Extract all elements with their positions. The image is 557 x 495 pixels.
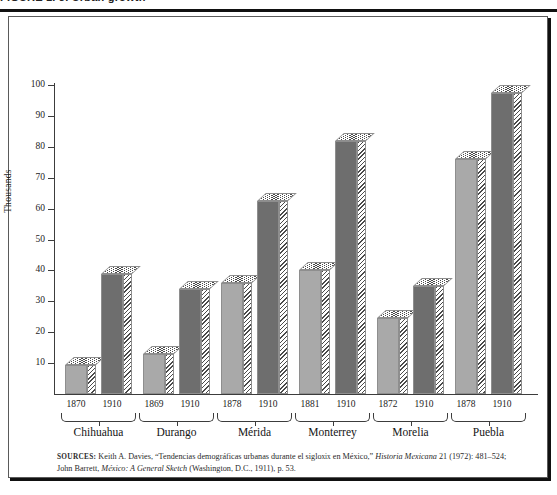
year-label-puebla-1910: 1910 (482, 399, 522, 409)
bar-side-hatch (123, 274, 132, 395)
bar-top-hatch (101, 266, 141, 274)
year-label-puebla-1878: 1878 (446, 399, 486, 409)
source-title-1: “Tendencias demográficas urbanas durante… (155, 452, 322, 461)
y-tick-label-40: 40 (9, 265, 45, 275)
bar-top-hatch (179, 281, 219, 289)
bar-face (455, 159, 477, 394)
bar-side-hatch (243, 283, 252, 394)
sources-note: SOURCES: Keith A. Davies, “Tendencias de… (57, 451, 517, 475)
bar-face (491, 93, 513, 394)
bar-side-hatch (201, 289, 210, 394)
bar-durango-1910 (179, 289, 201, 394)
bar-side-hatch (477, 159, 486, 394)
bar-top-hatch (455, 151, 495, 159)
bar-side-hatch (279, 201, 288, 394)
bar-top-hatch (221, 275, 261, 283)
frame-shadow-right (548, 18, 551, 480)
y-tick-label-70: 70 (9, 173, 45, 183)
source-title-1b: en México,” (333, 452, 373, 461)
bar-face (179, 289, 201, 394)
bar-side-hatch (165, 354, 174, 394)
bar-side-hatch (87, 365, 96, 394)
bar-face (257, 201, 279, 394)
bar-top-hatch (335, 133, 375, 141)
source-author-1: Keith A. Davies, (98, 452, 153, 461)
bar-monterrey-1881 (299, 270, 321, 394)
bar-face (65, 365, 87, 394)
x-axis-line (54, 394, 538, 395)
bar-durango-1869 (143, 354, 165, 394)
year-label-mrida-1878: 1878 (212, 399, 252, 409)
bars-plot-area (54, 69, 537, 393)
bar-face (221, 283, 243, 394)
bar-top-hatch (257, 193, 297, 201)
bar-mrida-1910 (257, 201, 279, 394)
year-label-chihuahua-1910: 1910 (92, 399, 132, 409)
bar-morelia-1872 (377, 318, 399, 394)
year-label-chihuahua-1870: 1870 (56, 399, 96, 409)
y-tick-label-10: 10 (9, 358, 45, 368)
y-tick-label-100: 100 (9, 80, 45, 90)
group-brace-morelia (373, 413, 448, 422)
group-brace-durango (139, 413, 214, 422)
year-label-monterrey-1910: 1910 (326, 399, 366, 409)
y-tick-label-50: 50 (9, 235, 45, 245)
y-tick-label-80: 80 (9, 142, 45, 152)
source-author-2: John Barrett, (57, 464, 99, 473)
y-tick-label-20: 20 (9, 327, 45, 337)
bar-top-hatch (65, 357, 105, 365)
figure-caption: FIGURE 1. 3. Urban growth (0, 0, 146, 3)
bar-mrida-1878 (221, 283, 243, 394)
bar-chihuahua-1910 (101, 274, 123, 395)
bar-face (143, 354, 165, 394)
bar-top-hatch (143, 346, 183, 354)
figure-frame: Thousands 102030405060708090100 18701910… (8, 16, 548, 478)
year-label-mrida-1910: 1910 (248, 399, 288, 409)
bar-face (335, 141, 357, 394)
bar-face (377, 318, 399, 394)
source-journal-2: México: A General Sketch (101, 464, 187, 473)
bar-top-hatch (491, 85, 531, 93)
year-label-morelia-1872: 1872 (368, 399, 408, 409)
bar-monterrey-1910 (335, 141, 357, 394)
source-journal-1: Historia Mexicana (375, 452, 437, 461)
bar-face (413, 286, 435, 394)
page-top-caption-strip: FIGURE 1. 3. Urban growth (0, 0, 557, 9)
source-cite-2: (Washington, D.C., 1911), p. 53. (189, 464, 296, 473)
bar-side-hatch (435, 286, 444, 394)
bar-puebla-1878 (455, 159, 477, 394)
group-brace-puebla (451, 413, 526, 422)
y-tick-label-30: 30 (9, 296, 45, 306)
bar-face (299, 270, 321, 394)
bar-morelia-1910 (413, 286, 435, 394)
year-label-monterrey-1881: 1881 (290, 399, 330, 409)
bar-side-hatch (513, 93, 522, 394)
group-brace-chihuahua (61, 413, 136, 422)
year-label-durango-1910: 1910 (170, 399, 210, 409)
bar-face (101, 274, 123, 395)
bar-side-hatch (399, 318, 408, 394)
bar-chihuahua-1870 (65, 365, 87, 394)
frame-shadow-bottom (10, 478, 551, 481)
y-tick-label-60: 60 (9, 204, 45, 214)
sources-label: SOURCES: (57, 452, 96, 461)
source-cite-1: 21 (1972): 481–524; (439, 452, 506, 461)
page-top-rule (0, 9, 557, 12)
group-brace-monterrey (295, 413, 370, 422)
bar-side-hatch (357, 141, 366, 394)
source-century-smallcaps: xix (322, 453, 331, 461)
year-label-durango-1869: 1869 (134, 399, 174, 409)
bar-top-hatch (413, 278, 453, 286)
group-brace-mrida (217, 413, 292, 422)
y-tick-label-90: 90 (9, 111, 45, 121)
city-label-puebla: Puebla (439, 426, 538, 438)
bar-top-hatch (377, 310, 417, 318)
bar-top-hatch (299, 262, 339, 270)
bar-side-hatch (321, 270, 330, 394)
bar-puebla-1910 (491, 93, 513, 394)
year-label-morelia-1910: 1910 (404, 399, 444, 409)
